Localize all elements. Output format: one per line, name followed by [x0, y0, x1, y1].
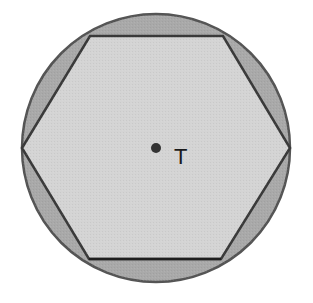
- center-point-label: T: [174, 144, 187, 169]
- diagram-svg: T: [0, 0, 313, 303]
- center-point-dot: [151, 143, 161, 153]
- diagram-canvas: T: [0, 0, 313, 303]
